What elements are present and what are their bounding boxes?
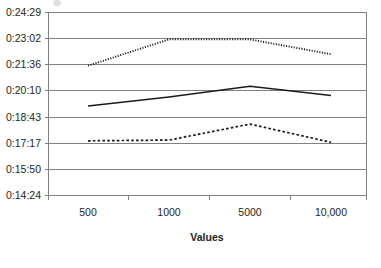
x-tick-label: 1000 (157, 206, 181, 218)
line-chart: 0:24:29 0:23:02 0:21:36 0:20:10 0:18:43 … (0, 0, 381, 268)
x-tick-label: 5000 (238, 206, 262, 218)
y-tickmarks (45, 13, 49, 196)
y-tick-label: 0:20:10 (6, 84, 41, 96)
y-tick-label: 0:15:50 (6, 163, 41, 175)
scan-artifact-speck (53, 0, 61, 6)
y-tick-label: 0:23:02 (6, 32, 41, 44)
x-tick-label: 500 (79, 206, 97, 218)
plot-background (49, 13, 367, 196)
y-tick-label: 0:18:43 (6, 111, 41, 123)
x-axis-title: Values (190, 231, 223, 243)
x-tick-labels: 500 1000 5000 10,000 (79, 206, 347, 218)
y-tick-label: 0:17:17 (6, 137, 41, 149)
y-tick-label: 0:21:36 (6, 58, 41, 70)
y-tick-label: 0:24:29 (6, 6, 41, 18)
y-tick-label: 0:14:24 (6, 189, 41, 201)
y-tick-labels: 0:24:29 0:23:02 0:21:36 0:20:10 0:18:43 … (6, 6, 41, 201)
x-tick-label: 10,000 (315, 206, 347, 218)
x-tickmarks (49, 196, 367, 201)
chart-canvas: 0:24:29 0:23:02 0:21:36 0:20:10 0:18:43 … (0, 0, 381, 268)
